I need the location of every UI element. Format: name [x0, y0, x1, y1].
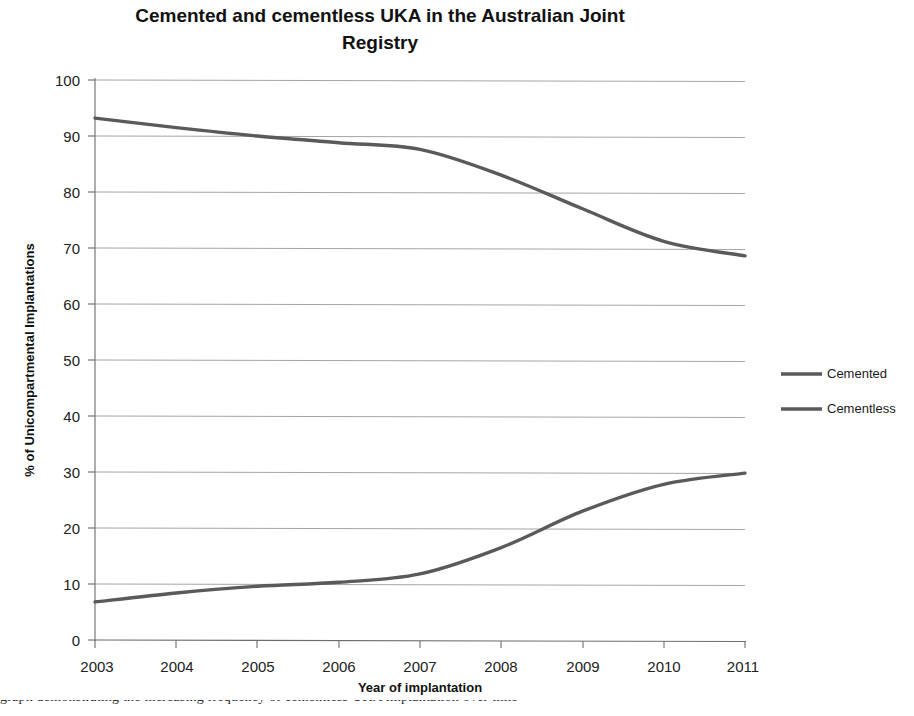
chart-background: [0, 0, 914, 716]
y-tick-label: 10: [63, 576, 80, 593]
y-tick-label: 30: [63, 464, 80, 481]
x-tick-label: 2010: [647, 658, 680, 675]
chart-title-line1: Cemented and cementless UKA in the Austr…: [135, 5, 625, 26]
x-tick-label: 2003: [80, 658, 113, 675]
y-tick-label: 70: [63, 240, 80, 257]
x-tick-label: 2004: [160, 658, 193, 675]
x-tick-label: 2011: [727, 658, 759, 675]
x-tick-labels: 2003 2004 2005 2006 2007 2008 2009 2010 …: [80, 658, 759, 675]
y-tick-label: 80: [63, 184, 80, 201]
y-tick-label: 90: [63, 128, 80, 145]
cropped-caption-text: graph demonstrating the increasing frequ…: [0, 700, 914, 705]
x-tick-label: 2009: [566, 658, 599, 675]
uka-registry-line-chart: Cemented and cementless UKA in the Austr…: [0, 0, 914, 716]
y-tick-label: 40: [63, 408, 80, 425]
legend-label-cemented: Cemented: [827, 366, 887, 381]
y-tick-label: 0: [72, 632, 80, 649]
y-tick-label: 20: [63, 520, 80, 537]
y-tick-label: 60: [63, 296, 80, 313]
x-tick-label: 2008: [484, 658, 517, 675]
y-tick-label: 50: [63, 352, 80, 369]
x-tick-label: 2006: [322, 658, 355, 675]
legend-label-cementless: Cementless: [827, 401, 896, 416]
y-tick-label: 100: [55, 72, 80, 89]
y-axis-title: % of Unicompartmental Implantations: [22, 243, 37, 476]
x-axis-title: Year of implantation: [358, 680, 482, 695]
chart-title-line2: Registry: [342, 32, 418, 53]
x-tick-label: 2007: [403, 658, 436, 675]
cropped-caption-strip: graph demonstrating the increasing frequ…: [0, 700, 914, 716]
x-tick-label: 2005: [241, 658, 274, 675]
